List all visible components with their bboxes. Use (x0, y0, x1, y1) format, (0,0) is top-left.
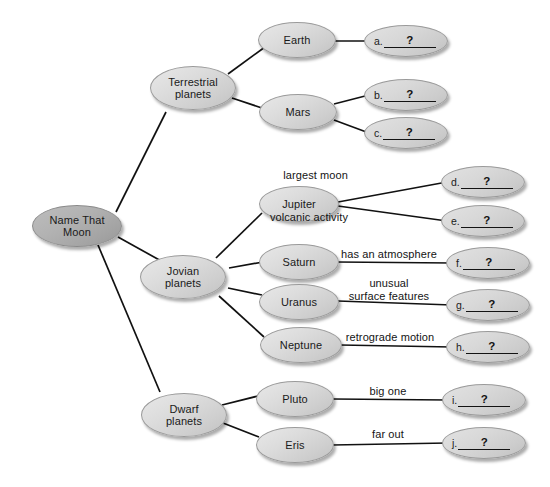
node-neptune-label: Neptune (280, 339, 322, 352)
node-uranus[interactable]: Uranus (259, 284, 339, 320)
answer-blank-i[interactable]: i. ? (442, 384, 526, 416)
answer-blank-e-rule: ? (461, 214, 513, 228)
answer-blank-a-rule: ? (384, 34, 436, 48)
answer-blank-f-rule: ? (463, 256, 515, 270)
edge-terrestrial-earth (228, 47, 265, 74)
answer-blank-c-inner: c. ? (374, 126, 435, 140)
answer-blank-i-letter: i. (452, 395, 457, 407)
answer-blank-j-letter: j. (452, 438, 457, 450)
answer-blank-d-question: ? (461, 175, 513, 187)
edge-root-terrestrial (116, 112, 166, 212)
node-eris-label: Eris (285, 439, 304, 452)
node-jupiter-label: Jupiter (282, 198, 316, 211)
answer-blank-e-inner: e. ? (451, 214, 513, 228)
edge-jovian-uranus (228, 288, 262, 295)
node-earth[interactable]: Earth (258, 22, 336, 58)
answer-blank-d[interactable]: d. ? (441, 166, 525, 198)
node-mars[interactable]: Mars (259, 94, 337, 130)
edge-neptune-h (340, 345, 452, 347)
node-terrestrial-planets[interactable]: Terrestrial planets (150, 66, 236, 110)
answer-blank-a[interactable]: a. ? (364, 25, 448, 57)
answer-blank-g-rule: ? (466, 298, 518, 312)
edge-jovian-saturn (229, 262, 263, 268)
answer-blank-b-rule: ? (384, 88, 436, 102)
answer-blank-h[interactable]: h. ? (446, 331, 530, 363)
answer-blank-c-letter: c. (374, 128, 382, 140)
answer-blank-h-rule: ? (466, 340, 518, 354)
answer-blank-i-inner: i. ? (452, 393, 510, 407)
answer-blank-b-letter: b. (374, 90, 383, 102)
answer-blank-g-question: ? (466, 298, 518, 310)
node-saturn-label: Saturn (282, 256, 315, 269)
answer-blank-b-question: ? (384, 88, 436, 100)
node-eris[interactable]: Eris (256, 427, 334, 463)
answer-blank-b-inner: b. ? (374, 88, 436, 102)
edge-caption-volcanic-activity: volcanic activity (236, 211, 348, 224)
node-pluto[interactable]: Pluto (256, 381, 334, 417)
node-earth-label: Earth (284, 34, 311, 47)
edge-caption-big-one: big one (330, 385, 446, 398)
edge-dwarf-eris (223, 423, 259, 437)
node-saturn[interactable]: Saturn (259, 244, 339, 280)
node-uranus-label: Uranus (281, 296, 317, 309)
answer-blank-a-letter: a. (374, 36, 383, 48)
answer-blank-j[interactable]: j. ? (442, 427, 526, 459)
answer-blank-d-inner: d. ? (451, 175, 513, 189)
answer-blank-a-question: ? (384, 34, 436, 46)
answer-blank-h-inner: h. ? (456, 340, 518, 354)
edge-jupiter-e (338, 206, 447, 221)
edge-jupiter-d (338, 182, 447, 202)
answer-blank-c-rule: ? (383, 126, 435, 140)
concept-map-diagram: Name That Moon Terrestrial planets Jovia… (0, 0, 550, 487)
node-neptune[interactable]: Neptune (260, 327, 342, 363)
edge-caption-far-out: far out (330, 428, 446, 441)
answer-blank-e-letter: e. (451, 216, 460, 228)
edge-dwarf-pluto (222, 396, 258, 405)
answer-blank-g-letter: g. (456, 300, 465, 312)
answer-blank-e[interactable]: e. ? (441, 205, 525, 237)
node-terrestrial-planets-label: Terrestrial planets (168, 76, 217, 101)
answer-blank-i-rule: ? (458, 393, 510, 407)
answer-blank-j-question: ? (458, 436, 510, 448)
node-dwarf-planets[interactable]: Dwarf planets (141, 393, 227, 437)
answer-blank-f-question: ? (463, 256, 515, 268)
answer-blank-d-rule: ? (461, 175, 513, 189)
node-jovian-planets[interactable]: Jovian planets (140, 255, 226, 299)
edge-caption-has-an-atmosphere: has an atmosphere (330, 248, 448, 261)
node-root[interactable]: Name That Moon (32, 205, 122, 247)
edge-eris-j (332, 443, 448, 445)
edge-caption-unusual-surface-features: unusual surface features (330, 277, 448, 303)
node-pluto-label: Pluto (282, 393, 308, 406)
answer-blank-g-inner: g. ? (456, 298, 518, 312)
edge-saturn-f (337, 262, 452, 263)
answer-blank-i-question: ? (458, 393, 510, 405)
answer-blank-e-question: ? (461, 214, 513, 226)
answer-blank-b[interactable]: b. ? (364, 79, 448, 111)
answer-blank-a-inner: a. ? (374, 34, 436, 48)
answer-blank-h-question: ? (466, 340, 518, 352)
node-mars-label: Mars (286, 106, 311, 119)
answer-blank-c-question: ? (383, 126, 435, 138)
edge-jovian-neptune (219, 296, 264, 337)
answer-blank-f-letter: f. (456, 258, 462, 270)
edge-caption-largest-moon: largest moon (240, 169, 348, 182)
node-jovian-planets-label: Jovian planets (165, 265, 201, 290)
answer-blank-j-inner: j. ? (452, 436, 510, 450)
answer-blank-f[interactable]: f. ? (446, 247, 530, 279)
answer-blank-f-inner: f. ? (456, 256, 515, 270)
edge-root-jovian (118, 237, 163, 262)
answer-blank-c[interactable]: c. ? (364, 117, 448, 149)
edge-pluto-i (333, 399, 448, 400)
edge-caption-retrograde-motion: retrograde motion (332, 331, 448, 344)
answer-blank-h-letter: h. (456, 342, 465, 354)
node-dwarf-planets-label: Dwarf planets (166, 403, 202, 428)
answer-blank-j-rule: ? (458, 436, 510, 450)
answer-blank-g[interactable]: g. ? (446, 289, 530, 321)
node-root-label: Name That Moon (49, 214, 104, 239)
answer-blank-d-letter: d. (451, 177, 460, 189)
